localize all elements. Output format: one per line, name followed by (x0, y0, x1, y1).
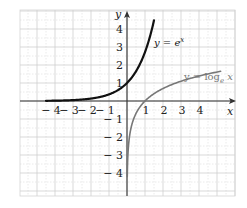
curve-labels: y = exy = loge x (153, 36, 233, 85)
exp-curve-label: y = ex (153, 36, 184, 48)
curves (46, 20, 221, 176)
x-tick-label: 3 (179, 104, 186, 117)
x-tick-label: 2 (161, 104, 168, 117)
y-tick-label: − 1 (103, 113, 123, 126)
y-tick-label: − 3 (103, 149, 123, 162)
y-tick-label: 4 (116, 23, 123, 36)
x-tick-label: − 4 (41, 104, 61, 117)
graph-canvas: − 4− 3− 2− 112344321− 1− 2− 3− 4xy y = e… (0, 0, 247, 208)
y-tick-label: 3 (116, 41, 123, 54)
y-tick-label: − 2 (103, 131, 123, 144)
x-tick-label: 4 (197, 104, 204, 117)
log-curve (127, 71, 220, 176)
x-tick-label: 1 (143, 104, 150, 117)
y-tick-label: 2 (116, 59, 123, 72)
y-tick-label: − 4 (103, 167, 123, 180)
tick-labels: − 4− 3− 2− 112344321− 1− 2− 3− 4xy (41, 8, 234, 180)
x-tick-label: − 2 (77, 104, 97, 117)
x-axis-label: x (227, 105, 234, 118)
y-axis-label: y (114, 8, 122, 21)
x-tick-label: − 3 (59, 104, 79, 117)
